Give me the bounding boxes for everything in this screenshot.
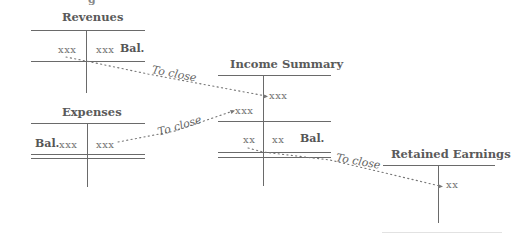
arrowhead-icon — [263, 94, 268, 99]
arrowhead-icon — [438, 184, 443, 189]
arrowhead-icon — [230, 110, 235, 114]
